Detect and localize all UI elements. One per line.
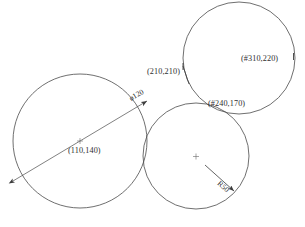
top-right-circle-center-label: (#310,220) bbox=[241, 54, 278, 63]
top-right-circle bbox=[183, 2, 295, 114]
bottom-circle-center-mark bbox=[193, 154, 199, 160]
left-point-leader bbox=[183, 66, 189, 84]
cad-drawing-canvas: (110,140) ø120 (210,210) (#310,220) (#24… bbox=[0, 0, 305, 227]
diameter-label: ø120 bbox=[128, 87, 146, 103]
tangency-point-label: (#240,170) bbox=[208, 99, 245, 108]
left-point-callout-label: (210,210) bbox=[147, 67, 180, 76]
large-circle-center-label: (110,140) bbox=[68, 146, 101, 155]
large-circle-center-mark bbox=[77, 138, 83, 144]
drawing-svg: (110,140) ø120 (210,210) (#310,220) (#24… bbox=[0, 0, 305, 227]
radius-label: R50 bbox=[216, 179, 232, 194]
